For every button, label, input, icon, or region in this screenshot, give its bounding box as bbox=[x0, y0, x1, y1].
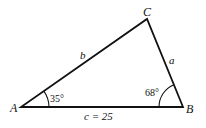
vertex-a-label: A bbox=[9, 101, 18, 115]
side-b-label: b bbox=[80, 49, 86, 61]
vertex-c-label: C bbox=[143, 5, 152, 19]
side-a-label: a bbox=[169, 54, 175, 66]
side-c-label: c = 25 bbox=[84, 110, 113, 122]
angle-arc-a bbox=[44, 91, 49, 107]
angle-a-label: 35° bbox=[50, 93, 64, 104]
angle-arc-b bbox=[159, 85, 174, 107]
triangle-diagram: A B C b a c = 25 35° 68° bbox=[0, 0, 206, 128]
angle-b-label: 68° bbox=[145, 87, 159, 98]
vertex-b-label: B bbox=[186, 102, 194, 116]
